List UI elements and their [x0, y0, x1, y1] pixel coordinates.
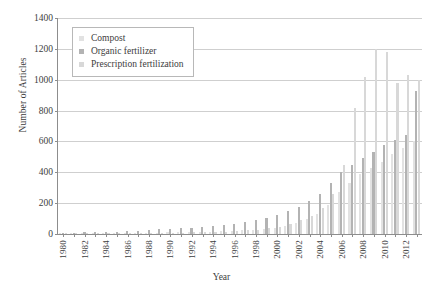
x-tick-mark — [245, 234, 246, 237]
x-tick-label: 2004 — [315, 240, 325, 259]
bar-group — [251, 18, 262, 234]
x-tick-mark — [277, 234, 278, 237]
x-tick-mark — [149, 234, 150, 237]
legend-item-compost: Compost — [79, 32, 184, 45]
y-tick-label: 600 — [39, 136, 53, 146]
x-tick-mark — [74, 234, 75, 237]
bar — [354, 108, 356, 235]
bar — [86, 233, 88, 234]
x-tick-mark — [406, 234, 407, 237]
bar — [65, 233, 67, 234]
bar-group — [197, 18, 208, 234]
x-tick-mark — [320, 234, 321, 237]
y-tick-label: 200 — [39, 198, 53, 208]
x-tick-label: 2010 — [380, 240, 390, 259]
x-tick-mark — [95, 234, 96, 237]
bar-group — [401, 18, 412, 234]
legend-item-prescription-fertilization: Prescription fertilization — [79, 58, 184, 71]
bar — [107, 233, 109, 234]
x-tick-mark — [85, 234, 86, 237]
bar-group — [326, 18, 337, 234]
x-tick-mark — [342, 234, 343, 237]
bar — [332, 194, 334, 234]
bar-group — [411, 18, 422, 234]
x-tick-mark — [160, 234, 161, 237]
bar — [129, 233, 131, 234]
bar — [150, 233, 152, 234]
x-tick-mark — [363, 234, 364, 237]
x-tick-label: 2008 — [358, 240, 368, 259]
x-tick-mark — [138, 234, 139, 237]
x-tick-mark — [385, 234, 386, 237]
x-tick-mark — [235, 234, 236, 237]
bar-group — [229, 18, 240, 234]
x-tick-mark — [310, 234, 311, 237]
bar — [204, 232, 206, 234]
bar — [118, 233, 120, 234]
x-tick-label: 2000 — [272, 240, 282, 259]
x-tick-mark — [192, 234, 193, 237]
legend-item-organic-fertilizer: Organic fertilizer — [79, 45, 184, 58]
bar — [247, 230, 249, 234]
legend-swatch-prescription-fertilization — [79, 62, 84, 67]
bar — [172, 233, 174, 234]
bar-group — [304, 18, 315, 234]
legend-swatch-organic-fertilizer — [79, 49, 84, 54]
bar — [375, 49, 377, 234]
chart-legend: Compost Organic fertilizer Prescription … — [72, 27, 194, 77]
bar-group — [261, 18, 272, 234]
bar — [268, 228, 270, 234]
legend-label-compost: Compost — [91, 32, 125, 45]
x-tick-mark — [128, 234, 129, 237]
x-tick-mark — [203, 234, 204, 237]
bar-group — [358, 18, 369, 234]
x-tick-mark — [63, 234, 64, 237]
bar-group — [240, 18, 251, 234]
x-tick-mark — [267, 234, 268, 237]
x-tick-mark — [374, 234, 375, 237]
x-tick-mark — [181, 234, 182, 237]
legend-label-organic-fertilizer: Organic fertilizer — [91, 45, 157, 58]
legend-label-prescription-fertilization: Prescription fertilization — [91, 58, 184, 71]
x-tick-mark — [395, 234, 396, 237]
bar-group — [390, 18, 401, 234]
legend-swatch-compost — [79, 36, 84, 41]
y-tick-label: 1200 — [34, 44, 53, 54]
bar-group — [283, 18, 294, 234]
x-tick-mark — [352, 234, 353, 237]
bar — [343, 165, 345, 234]
bar-group — [219, 18, 230, 234]
x-tick-mark — [224, 234, 225, 237]
bar-group — [294, 18, 305, 234]
bar — [364, 77, 366, 234]
bar — [140, 233, 142, 234]
bar — [311, 216, 313, 235]
x-axis-title: Year — [0, 272, 443, 282]
y-tick-label: 1400 — [34, 13, 53, 23]
y-tick-label: 1000 — [34, 75, 53, 85]
bar-group — [272, 18, 283, 234]
y-tick-label: 400 — [39, 167, 53, 177]
bar-group — [58, 18, 69, 234]
bar — [418, 80, 420, 234]
bar — [396, 83, 398, 234]
bar — [289, 224, 291, 234]
x-tick-label: 1982 — [80, 240, 90, 259]
x-tick-label: 1996 — [230, 240, 240, 259]
bar-chart-figure: Number of Articles Year 0200400600800100… — [0, 0, 443, 297]
x-tick-label: 1998 — [251, 240, 261, 259]
x-tick-label: 1986 — [123, 240, 133, 259]
x-tick-label: 1994 — [208, 240, 218, 259]
bar — [193, 232, 195, 234]
bar-group — [315, 18, 326, 234]
y-tick-label: 0 — [48, 229, 53, 239]
x-tick-label: 1990 — [165, 240, 175, 259]
x-tick-mark — [299, 234, 300, 237]
bar-group — [379, 18, 390, 234]
x-tick-mark — [170, 234, 171, 237]
x-tick-mark — [417, 234, 418, 237]
bar-group — [347, 18, 358, 234]
x-tick-mark — [331, 234, 332, 237]
y-tick-label: 800 — [39, 106, 53, 116]
x-tick-label: 1992 — [187, 240, 197, 259]
